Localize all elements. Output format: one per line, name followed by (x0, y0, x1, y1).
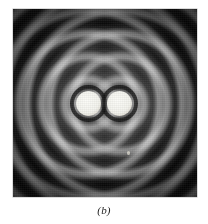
emulsion-speck-artifact (127, 151, 130, 155)
figure-root: (b) (0, 0, 208, 224)
figure-caption: (b) (0, 204, 208, 216)
right-source-bright-disk (107, 91, 132, 116)
left-source-bright-disk (76, 91, 101, 116)
interference-pattern-photograph (13, 9, 197, 197)
